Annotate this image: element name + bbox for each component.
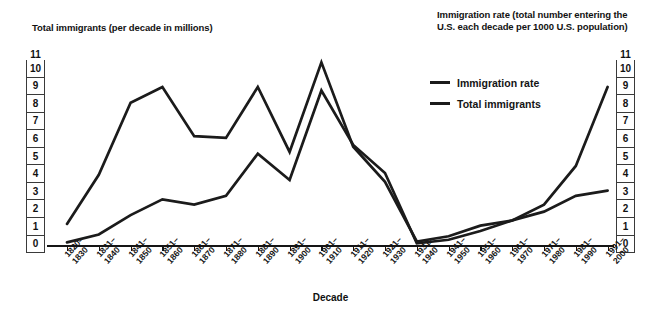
y-tick-5: 5 xyxy=(616,148,635,166)
y-tick-10: 10 xyxy=(26,60,45,78)
x-axis-label: Decade xyxy=(0,292,661,303)
y-tick-7: 7 xyxy=(26,113,45,131)
legend-label-total-immigrants: Total immigrants xyxy=(457,98,541,110)
y-tick-5: 5 xyxy=(26,148,45,166)
y-tick-11: 11 xyxy=(616,45,635,60)
y-tick-9: 9 xyxy=(616,78,635,96)
y-tick-2: 2 xyxy=(616,200,635,218)
y-tick-10: 10 xyxy=(616,60,635,78)
y-tick-3: 3 xyxy=(26,183,45,201)
y-tick-1: 1 xyxy=(26,218,45,236)
y-axis-left: 11109876543210 xyxy=(26,45,45,253)
y-tick-0: 0 xyxy=(616,236,635,254)
y-axis-right: 11109876543210 xyxy=(616,45,635,253)
left-axis-title: Total immigrants (per decade in millions… xyxy=(32,22,212,34)
y-tick-7: 7 xyxy=(616,113,635,131)
legend-item-total-immigrants: Total immigrants xyxy=(430,95,541,112)
y-tick-4: 4 xyxy=(616,165,635,183)
legend-swatch-total-immigrants xyxy=(430,102,450,106)
x-axis-baseline xyxy=(47,245,614,247)
y-tick-2: 2 xyxy=(26,200,45,218)
right-axis-title: Immigration rate (total number entering … xyxy=(437,9,628,32)
y-tick-4: 4 xyxy=(26,165,45,183)
legend-label-immigration-rate: Immigration rate xyxy=(457,77,539,89)
y-tick-0: 0 xyxy=(26,236,45,254)
y-tick-3: 3 xyxy=(616,183,635,201)
legend-item-immigration-rate: Immigration rate xyxy=(430,74,541,91)
y-tick-8: 8 xyxy=(616,95,635,113)
y-tick-9: 9 xyxy=(26,78,45,96)
legend-swatch-immigration-rate xyxy=(430,81,450,85)
y-tick-6: 6 xyxy=(26,130,45,148)
y-tick-11: 11 xyxy=(26,45,45,60)
y-tick-1: 1 xyxy=(616,218,635,236)
immigration-chart-figure: Total immigrants (per decade in millions… xyxy=(0,0,661,312)
y-tick-8: 8 xyxy=(26,95,45,113)
legend: Immigration rate Total immigrants xyxy=(430,74,541,116)
y-tick-6: 6 xyxy=(616,130,635,148)
